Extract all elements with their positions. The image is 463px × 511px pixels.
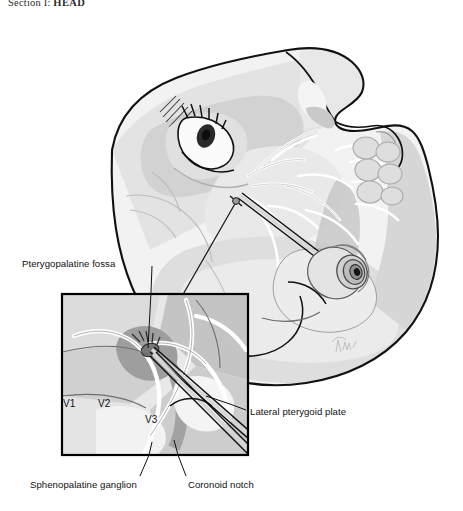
label-v1: V1 — [63, 398, 75, 409]
label-pterygopalatine-fossa: Pterygopalatine fossa — [22, 258, 115, 269]
figure-page: Section I: HEAD — [0, 0, 463, 511]
label-v3: V3 — [145, 414, 157, 425]
label-lateral-pterygoid-plate: Lateral pterygoid plate — [250, 406, 346, 417]
label-sphenopalatine-ganglion: Sphenopalatine ganglion — [30, 479, 137, 490]
label-coronoid-notch: Coronoid notch — [188, 479, 254, 490]
nodular-cluster — [353, 137, 403, 205]
label-v2: V2 — [98, 398, 110, 409]
anatomy-illustration — [0, 0, 463, 511]
magnified-inset — [62, 294, 256, 462]
